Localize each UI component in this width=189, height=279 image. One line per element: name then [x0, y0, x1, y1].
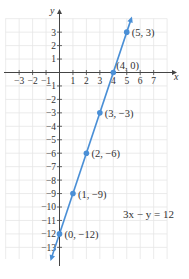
data-point	[84, 150, 90, 156]
plotted-line: (5, 3)(4, 0)(3, −3)(2, −6)(1, −9)(0, −12…	[50, 17, 155, 261]
y-tick-label: −10	[41, 202, 56, 212]
y-tick-label: −11	[41, 216, 56, 226]
y-tick-label: −1	[46, 81, 56, 91]
y-tick-label: −2	[46, 95, 56, 105]
x-tick-label: −3	[14, 76, 24, 86]
data-point	[97, 110, 103, 116]
data-point-label: (2, −6)	[91, 148, 120, 160]
y-axis-label: y	[49, 5, 55, 16]
y-axis-arrow-icon	[57, 9, 62, 14]
y-tick-label: −6	[46, 149, 56, 159]
axes	[4, 9, 177, 266]
equation-label: 3x − y = 12	[123, 208, 174, 220]
data-point	[111, 70, 117, 76]
arrow-down-icon	[50, 254, 55, 261]
y-tick-label: −3	[46, 108, 56, 118]
x-tick-label: 5	[124, 76, 129, 86]
x-tick-label: 6	[138, 76, 143, 86]
y-tick-label: −9	[46, 189, 56, 199]
data-point	[70, 191, 76, 197]
data-point-label: (5, 3)	[132, 27, 155, 39]
x-tick-label: 3	[97, 76, 102, 86]
grid-lines	[6, 19, 168, 260]
y-tick-label: 1	[51, 54, 56, 64]
coordinate-plane: −3−2−11234567321−1−2−3−4−5−6−7−8−9−10−11…	[0, 0, 189, 279]
y-tick-label: −7	[46, 162, 56, 172]
y-tick-label: −12	[41, 229, 56, 239]
y-tick-label: −8	[46, 176, 56, 186]
data-point-label: (4, 0)	[116, 60, 139, 72]
x-axis-label: x	[173, 71, 179, 82]
y-tick-label: 3	[51, 28, 56, 38]
data-point	[124, 29, 130, 35]
x-tick-label: 7	[151, 76, 156, 86]
y-tick-label: −5	[46, 135, 56, 145]
series-line	[51, 19, 131, 258]
x-tick-label: −2	[28, 76, 38, 86]
data-point	[57, 231, 63, 237]
data-point-label: (3, −3)	[105, 108, 134, 120]
y-tick-label: −4	[46, 122, 56, 132]
arrow-up-icon	[127, 17, 132, 24]
x-tick-label: 2	[84, 76, 89, 86]
data-point-label: (0, −12)	[65, 229, 99, 241]
data-point-label: (1, −9)	[78, 189, 107, 201]
y-tick-label: 2	[51, 41, 56, 51]
x-tick-label: 1	[71, 76, 76, 86]
